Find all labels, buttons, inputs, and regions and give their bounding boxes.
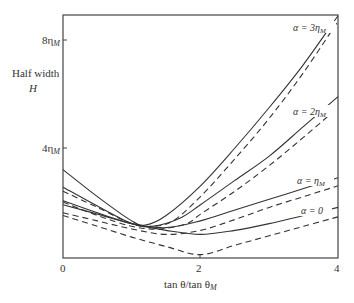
curves bbox=[63, 16, 338, 255]
ytick-label-4: 4ηM bbox=[42, 142, 61, 156]
annotation-alpha-0: α = 0 bbox=[301, 205, 323, 216]
xtick-label-4: 4 bbox=[334, 262, 340, 274]
xtick-label-2: 2 bbox=[196, 262, 202, 274]
curve-0 bbox=[63, 16, 338, 226]
plot-frame bbox=[63, 15, 338, 258]
curve-1 bbox=[63, 21, 338, 226]
ytick-label-8: 8ηM bbox=[42, 34, 61, 48]
x-axis-label: tan θ/tan θM bbox=[164, 278, 218, 292]
chart: 8ηM 4ηM 0 2 4 Half width H tan θ/tan θM … bbox=[0, 0, 354, 303]
y-axis-label: Half width bbox=[12, 67, 60, 79]
y-axis-symbol: H bbox=[28, 82, 38, 94]
xtick-label-0: 0 bbox=[60, 262, 66, 274]
